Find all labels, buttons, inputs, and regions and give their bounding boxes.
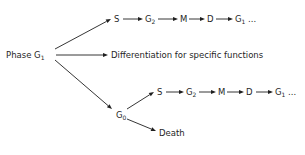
arrow-shaft xyxy=(127,95,150,109)
top-node-s: S xyxy=(114,14,119,24)
g0-node-s: S xyxy=(157,87,162,97)
arrow-shaft xyxy=(127,119,151,129)
arrow-head-icon xyxy=(173,17,178,21)
arrow-head-icon xyxy=(103,53,108,57)
arrow-head-icon xyxy=(149,92,154,96)
arrow-s-to-g2 xyxy=(123,17,143,21)
g0-node-d: D xyxy=(246,87,253,97)
node-phase-g1: Phase G1 xyxy=(6,50,45,60)
arrow-head-icon xyxy=(268,90,273,94)
node-death: Death xyxy=(159,128,185,138)
arrow-g0m-to-d xyxy=(227,90,244,94)
arrow-head-icon xyxy=(239,90,244,94)
g0-node-g2: G2 xyxy=(186,87,196,97)
arrow-head-icon xyxy=(138,17,143,21)
arrow-head-icon xyxy=(211,90,216,94)
node-g0: G0 xyxy=(116,110,126,120)
arrow-head-icon xyxy=(228,17,233,21)
g0-node-g1: G1 ... xyxy=(275,87,296,97)
node-differentiation: Differentiation for specific functions xyxy=(111,50,263,60)
arrow-d-to-g1 xyxy=(216,17,233,21)
arrow-g0-to-death xyxy=(127,119,156,131)
arrow-m-to-d xyxy=(189,17,205,21)
top-node-g2: G2 xyxy=(145,14,155,24)
arrow-shaft xyxy=(55,21,107,49)
arrow-g1-to-differentiation xyxy=(56,53,108,57)
arrow-g0s-to-g2 xyxy=(166,90,184,94)
arrow-g1-to-s xyxy=(55,19,111,49)
arrow-g0g2-to-m xyxy=(199,90,216,94)
arrow-g1-to-g0 xyxy=(55,60,112,109)
top-node-m: M xyxy=(180,14,187,24)
arrow-g0-to-s xyxy=(127,92,154,109)
top-node-d: D xyxy=(207,14,214,24)
g0-node-m: M xyxy=(218,87,225,97)
arrow-g2-to-m xyxy=(158,17,178,21)
arrow-head-icon xyxy=(179,90,184,94)
arrow-head-icon xyxy=(151,127,156,131)
cell-cycle-diagram: Phase G1 S G2 M D G1 ... Differentiation… xyxy=(0,0,305,155)
arrow-head-icon xyxy=(106,19,111,23)
arrow-head-icon xyxy=(200,17,205,21)
arrow-shaft xyxy=(55,60,108,106)
top-node-g1: G1 ... xyxy=(235,14,256,24)
arrow-g0d-to-g1 xyxy=(256,90,273,94)
